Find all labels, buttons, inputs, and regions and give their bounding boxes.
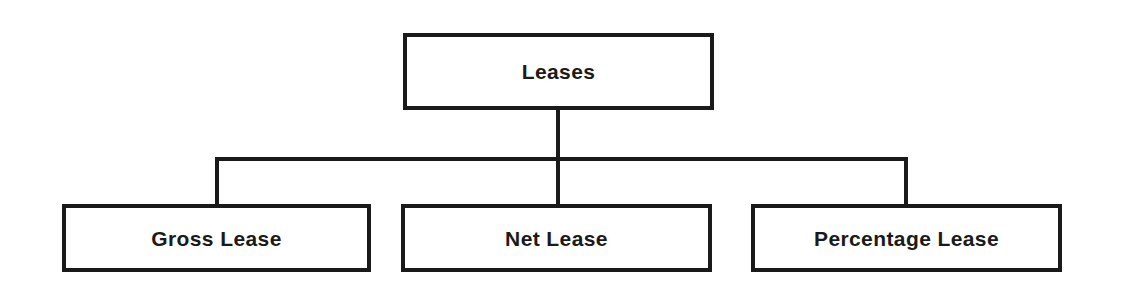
node-percentage-lease-label: Percentage Lease: [814, 228, 999, 249]
node-leases-label: Leases: [522, 61, 596, 82]
connector-root-stem: [556, 108, 560, 161]
leases-hierarchy-diagram: Leases Gross Lease Net Lease Percentage …: [0, 0, 1134, 305]
connector-horizontal-bus: [217, 157, 908, 161]
node-gross-lease[interactable]: Gross Lease: [62, 204, 371, 272]
node-net-lease-label: Net Lease: [505, 228, 608, 249]
connector-drop-percentage-lease: [904, 157, 908, 206]
connector-drop-net-lease: [556, 157, 560, 206]
connector-drop-gross-lease: [215, 157, 219, 206]
node-percentage-lease[interactable]: Percentage Lease: [751, 204, 1062, 272]
node-gross-lease-label: Gross Lease: [151, 228, 281, 249]
node-net-lease[interactable]: Net Lease: [401, 204, 712, 272]
node-leases[interactable]: Leases: [403, 33, 714, 110]
